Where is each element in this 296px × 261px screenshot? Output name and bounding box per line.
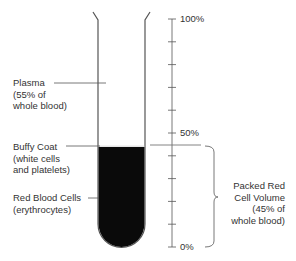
- red-blood-cell-layer: [99, 147, 145, 247]
- scale-label-50: 50%: [180, 127, 199, 139]
- scale-label-100: 100%: [180, 13, 204, 25]
- packed-volume-brace: [205, 146, 218, 247]
- buffy-coat-label: Buffy Coat (white cells and platelets): [13, 141, 70, 176]
- scale-label-0: 0%: [180, 241, 194, 253]
- rbc-label: Red Blood Cells (erythrocytes): [13, 192, 81, 215]
- plasma-label: Plasma (55% of whole blood): [13, 77, 67, 112]
- packed-volume-label: Packed Red Cell Volume (45% of whole blo…: [231, 180, 285, 226]
- percent-scale: [168, 19, 176, 247]
